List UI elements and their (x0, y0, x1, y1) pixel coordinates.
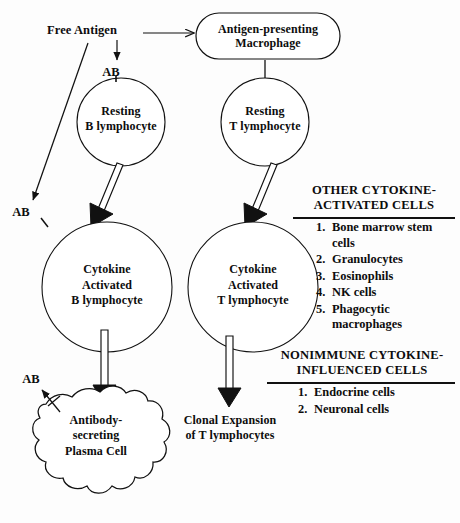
list-item-label: Granulocytes (332, 252, 403, 266)
list-item-label: Bone marrow stem cells (332, 220, 432, 250)
list-item: 2. Granulocytes (316, 252, 456, 268)
list-item: 5. Phagocytic macrophages (316, 302, 456, 333)
list-item: 1. Endocrine cells (298, 385, 458, 401)
label-ab-plasma-cell: AB (18, 372, 44, 386)
list-item-number: 1. (298, 385, 307, 401)
list-item-label: NK cells (332, 285, 376, 299)
panel-b-heading: NONIMMUNE CYTOKINE- INFLUENCED CELLS (266, 348, 458, 378)
label-resting-b-lymphocyte: Resting B lymphocyte (78, 104, 164, 134)
list-item-number: 2. (316, 252, 325, 268)
label-ab-activated-b: AB (8, 205, 34, 219)
arrow-resting-b-to-activated-b (90, 163, 123, 227)
panel-other-cytokine-activated-cells: OTHER CYTOKINE- ACTIVATED CELLS 1. Bone … (292, 183, 456, 334)
label-resting-t-lymphocyte: Resting T lymphocyte (222, 104, 308, 134)
list-item-number: 5. (316, 302, 325, 318)
panel-a-heading: OTHER CYTOKINE- ACTIVATED CELLS (292, 183, 456, 213)
list-item: 4. NK cells (316, 285, 456, 301)
arrow-resting-t-to-activated-t (244, 163, 277, 227)
label-cytokine-activated-b-lymphocyte: Cytokine Activated B lymphocyte (52, 262, 162, 309)
panel-nonimmune-cytokine-influenced-cells: NONIMMUNE CYTOKINE- INFLUENCED CELLS 1. … (266, 348, 458, 418)
receptor-tick-activated-b (41, 218, 48, 227)
list-item-label: Phagocytic macrophages (332, 302, 402, 332)
list-item-label: Endocrine cells (314, 385, 395, 399)
list-item-label: Neuronal cells (314, 402, 389, 416)
list-item-number: 1. (316, 220, 325, 236)
label-free-antigen: Free Antigen (28, 23, 136, 37)
list-item: 2. Neuronal cells (298, 402, 458, 418)
list-item-number: 4. (316, 285, 325, 301)
panel-b-list: 1. Endocrine cells 2. Neuronal cells (266, 385, 458, 417)
list-item-number: 3. (316, 269, 325, 285)
list-item-label: Eosinophils (332, 269, 393, 283)
list-item: 1. Bone marrow stem cells (316, 220, 456, 251)
label-ab-resting-b: AB (98, 65, 124, 79)
label-antigen-presenting-macrophage: Antigen-presenting Macrophage (203, 22, 333, 51)
list-item-number: 2. (298, 402, 307, 418)
label-antibody-secreting-plasma-cell: Antibody- secreting Plasma Cell (44, 413, 148, 459)
panel-a-list: 1. Bone marrow stem cells 2. Granulocyte… (292, 220, 456, 333)
list-item: 3. Eosinophils (316, 269, 456, 285)
immunology-flow-diagram: Free Antigen Antigen-presenting Macropha… (0, 0, 460, 523)
